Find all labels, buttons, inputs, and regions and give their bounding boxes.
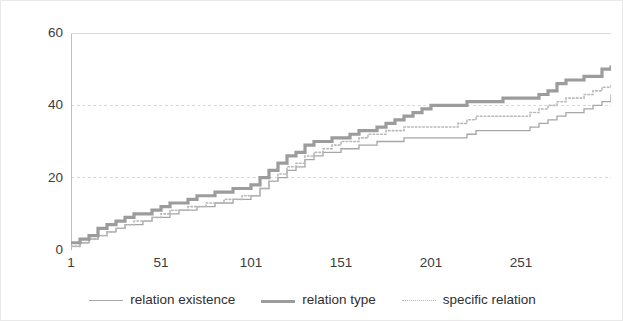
plot-svg (71, 33, 611, 250)
chart-legend: relation existencerelation typespecific … (1, 288, 623, 312)
legend-item-relation-type[interactable]: relation type (261, 293, 376, 307)
x-axis: 151101151201251 (71, 256, 611, 276)
y-tick-label-0: 0 (1, 243, 63, 257)
x-tick-label-101: 101 (240, 256, 263, 270)
series-line-relation-existence (71, 94, 611, 246)
x-tick-label-151: 151 (330, 256, 353, 270)
legend-label: relation type (302, 293, 376, 307)
line-dotted-swatch (402, 295, 436, 305)
y-tick-label-20: 20 (1, 171, 63, 185)
legend-item-specific-relation[interactable]: specific relation (402, 293, 536, 307)
x-tick-label-1: 1 (67, 256, 75, 270)
legend-item-relation-existence[interactable]: relation existence (89, 293, 235, 307)
x-tick-label-201: 201 (420, 256, 443, 270)
plot-area (71, 33, 611, 250)
legend-label: specific relation (443, 293, 536, 307)
line-thin-swatch (89, 295, 123, 305)
line-thick-swatch (261, 295, 295, 305)
y-tick-label-40: 40 (1, 99, 63, 113)
legend-label: relation existence (130, 293, 235, 307)
series-line-specific-relation (71, 84, 611, 247)
chart-container: 0204060 151101151201251 relation existen… (0, 0, 623, 321)
x-tick-label-251: 251 (510, 256, 533, 270)
y-axis: 0204060 (1, 1, 63, 321)
x-tick-label-51: 51 (153, 256, 168, 270)
y-tick-label-60: 60 (1, 26, 63, 40)
series-line-relation-type (71, 66, 611, 243)
